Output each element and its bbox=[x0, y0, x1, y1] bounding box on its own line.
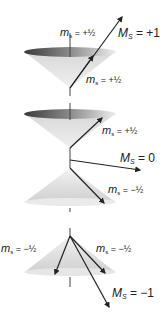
label-total-ms: MS = −1 bbox=[112, 286, 154, 300]
label-ms-up: ms = +½ bbox=[102, 124, 138, 137]
label-ms-left: ms = −½ bbox=[1, 242, 37, 255]
label-ms-right: ms = −½ bbox=[96, 242, 132, 255]
panel-ms-zero: ms = +½ MS = 0 ms = −½ bbox=[24, 103, 155, 206]
spin-vector-diagram: ms = +½ MS = +1 ms = +½ ms = +½ MS = 0 m… bbox=[0, 0, 164, 321]
label-total-ms: MS = +1 bbox=[118, 26, 160, 40]
label-total-ms: MS = 0 bbox=[120, 151, 155, 165]
panel-ms-minus-one: ms = −½ ms = −½ MS = −1 bbox=[1, 208, 154, 307]
label-ms-down: ms = −½ bbox=[108, 183, 144, 196]
label-ms-upper: ms = +½ bbox=[60, 26, 96, 39]
label-ms-lower: ms = +½ bbox=[86, 73, 122, 86]
cone-body-lower bbox=[25, 168, 115, 202]
panel-ms-plus-one: ms = +½ MS = +1 ms = +½ bbox=[24, 17, 160, 96]
